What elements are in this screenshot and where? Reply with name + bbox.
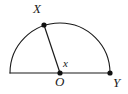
vertex-label-o: O: [55, 75, 64, 88]
semicircle-arc: [10, 23, 110, 73]
vertex-label-y: Y: [113, 76, 120, 89]
vertex-label-x-upper: X: [33, 2, 41, 15]
point-marker-X: [41, 22, 46, 27]
radius-line-OX: [44, 25, 60, 73]
geometry-figure: X O Y x: [0, 0, 128, 94]
angle-label-x: x: [63, 58, 68, 69]
point-marker-Y: [107, 70, 112, 75]
